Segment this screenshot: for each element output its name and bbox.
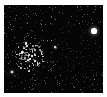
- faint-star: [63, 5, 64, 6]
- faint-star: [95, 40, 96, 41]
- faint-star: [71, 71, 72, 72]
- faint-star: [75, 75, 76, 76]
- faint-star: [76, 57, 77, 58]
- faint-star: [76, 79, 77, 80]
- bright-star: [34, 60, 36, 62]
- faint-star: [27, 23, 28, 24]
- faint-star: [32, 89, 33, 90]
- faint-star: [43, 44, 44, 45]
- faint-star: [81, 37, 82, 38]
- faint-star: [35, 80, 36, 81]
- faint-star: [92, 84, 93, 85]
- faint-star: [83, 65, 84, 66]
- cluster-star: [21, 58, 22, 59]
- faint-star: [4, 6, 5, 7]
- faint-star: [88, 48, 89, 49]
- faint-star: [52, 10, 53, 11]
- faint-star: [82, 21, 83, 22]
- faint-star: [100, 46, 101, 47]
- faint-star: [98, 22, 99, 23]
- faint-star: [71, 26, 72, 27]
- faint-star: [16, 43, 17, 44]
- faint-star: [88, 44, 89, 45]
- faint-star: [32, 70, 33, 71]
- cluster-star: [27, 67, 28, 68]
- faint-star: [21, 27, 22, 28]
- cluster-star: [30, 43, 31, 44]
- faint-star: [23, 15, 24, 16]
- faint-star: [8, 45, 9, 46]
- faint-star: [60, 29, 61, 30]
- faint-star: [100, 21, 101, 22]
- faint-star: [78, 10, 79, 11]
- faint-star: [36, 22, 37, 23]
- faint-star: [67, 25, 68, 26]
- faint-star: [102, 64, 103, 65]
- faint-star: [28, 44, 29, 45]
- faint-star: [21, 43, 22, 44]
- faint-star: [102, 72, 103, 73]
- faint-star: [68, 31, 69, 32]
- cluster-star: [20, 67, 22, 69]
- faint-star: [52, 62, 53, 63]
- faint-star: [83, 41, 84, 42]
- faint-star: [51, 52, 52, 53]
- faint-star: [82, 92, 83, 93]
- cluster-star: [41, 52, 42, 53]
- cluster-star: [34, 49, 35, 50]
- faint-star: [37, 71, 38, 72]
- faint-star: [25, 64, 26, 65]
- faint-star: [85, 46, 86, 47]
- faint-star: [8, 27, 9, 28]
- faint-star: [87, 66, 88, 67]
- cluster-star: [39, 65, 40, 66]
- faint-star: [68, 22, 69, 23]
- faint-star: [94, 79, 95, 80]
- cluster-star: [32, 50, 34, 52]
- faint-star: [30, 11, 31, 12]
- faint-star: [41, 26, 42, 27]
- faint-star: [35, 38, 36, 39]
- faint-star: [91, 37, 92, 38]
- faint-star: [101, 62, 102, 63]
- faint-star: [5, 16, 6, 17]
- faint-star: [16, 57, 17, 58]
- faint-star: [102, 83, 103, 84]
- faint-star: [85, 20, 86, 21]
- star-field-image: [4, 5, 103, 93]
- faint-star: [62, 13, 63, 14]
- faint-star: [26, 18, 27, 19]
- faint-star: [32, 31, 33, 32]
- faint-star: [74, 87, 75, 88]
- faint-star: [61, 73, 62, 74]
- faint-star: [80, 89, 81, 90]
- faint-star: [70, 83, 71, 84]
- faint-star: [45, 83, 46, 84]
- faint-star: [100, 7, 101, 8]
- faint-star: [26, 47, 27, 48]
- faint-star: [62, 49, 63, 50]
- faint-star: [91, 19, 92, 20]
- faint-star: [93, 58, 94, 59]
- faint-star: [41, 40, 42, 41]
- faint-star: [71, 51, 72, 52]
- faint-star: [11, 29, 12, 30]
- faint-star: [90, 41, 91, 42]
- faint-star: [55, 19, 56, 20]
- faint-star: [4, 27, 5, 28]
- faint-star: [15, 76, 16, 77]
- faint-star: [33, 68, 34, 69]
- cluster-star: [24, 52, 26, 54]
- faint-star: [10, 24, 11, 25]
- faint-star: [27, 22, 28, 23]
- faint-star: [15, 18, 16, 19]
- faint-star: [97, 84, 98, 85]
- faint-star: [28, 35, 29, 36]
- faint-star: [16, 6, 17, 7]
- faint-star: [88, 6, 89, 7]
- faint-star: [71, 16, 72, 17]
- faint-star: [61, 37, 62, 38]
- faint-star: [94, 11, 95, 12]
- faint-star: [58, 44, 59, 45]
- faint-star: [60, 68, 61, 69]
